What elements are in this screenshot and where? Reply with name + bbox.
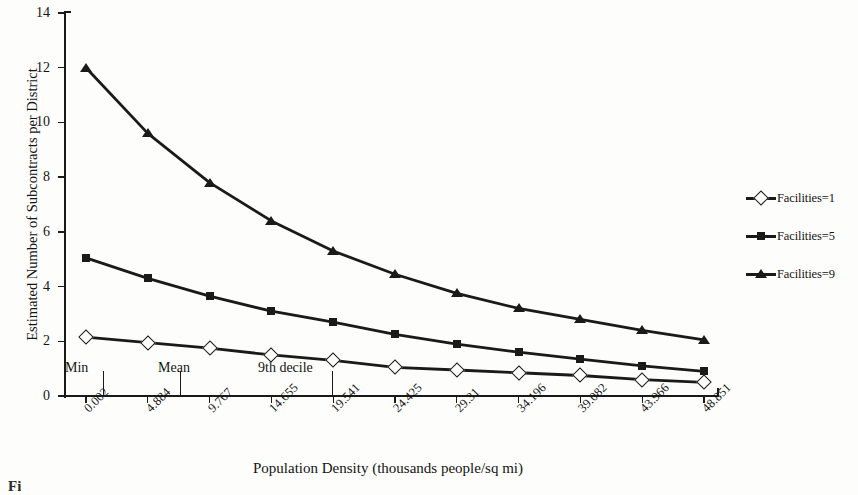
legend-marker-icon <box>746 267 776 281</box>
legend-label: Facilities=5 <box>777 230 835 243</box>
series-line-2 <box>86 68 704 340</box>
data-point-marker <box>144 274 152 282</box>
data-point-marker <box>389 269 401 278</box>
data-point-marker <box>453 340 461 348</box>
data-point-marker <box>80 63 92 72</box>
data-point-marker <box>636 325 648 334</box>
line-chart: 02468101214 0.0024.8849.76714.65519.5412… <box>0 0 858 495</box>
legend-label: Facilities=1 <box>777 192 835 205</box>
data-point-marker <box>451 288 463 297</box>
legend-label: Facilities=9 <box>777 268 835 281</box>
data-point-marker <box>204 178 216 187</box>
data-point-marker <box>574 314 586 323</box>
x-axis-title: Population Density (thousands people/sq … <box>128 460 648 477</box>
legend-item-3[interactable]: Facilities=9 <box>746 266 835 282</box>
data-point-marker <box>329 318 337 326</box>
y-tick-label: 0 <box>8 389 50 403</box>
data-point-marker <box>513 304 525 313</box>
y-axis-title: Estimated Number of Subcontracts per Dis… <box>24 25 41 385</box>
data-point-marker <box>206 292 214 300</box>
data-point-marker <box>327 246 339 255</box>
legend-item-1[interactable]: Facilities=1 <box>746 190 835 206</box>
data-point-marker <box>576 355 584 363</box>
data-point-marker <box>700 367 708 375</box>
series-lines <box>64 13 718 396</box>
data-point-marker <box>515 348 523 356</box>
data-point-marker <box>267 307 275 315</box>
plot-area <box>64 13 718 396</box>
data-point-marker <box>142 128 154 137</box>
legend-item-2[interactable]: Facilities=5 <box>746 228 835 244</box>
data-point-marker <box>82 254 90 262</box>
data-point-marker <box>265 216 277 225</box>
data-point-marker <box>391 330 399 338</box>
y-tick-label: 14 <box>8 6 50 20</box>
legend-marker-icon <box>746 229 776 243</box>
data-point-marker <box>638 362 646 370</box>
cut-off-caption: Fi <box>8 478 21 495</box>
data-point-marker <box>698 335 710 344</box>
legend-marker-icon <box>746 191 776 205</box>
